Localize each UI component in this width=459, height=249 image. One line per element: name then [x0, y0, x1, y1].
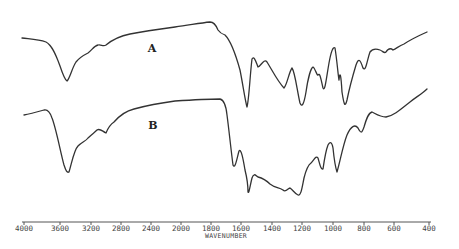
- spectrum-a-curve: [22, 22, 427, 107]
- curve-b-label: B: [148, 119, 157, 132]
- tick-label: 4000: [15, 224, 34, 233]
- ir-spectrum-chart: A B 4000 3600 3200 2800 2400 2000 1800 1…: [0, 0, 459, 249]
- x-axis-title: WAVENUMBER: [205, 232, 247, 240]
- tick-label: 1200: [293, 224, 312, 233]
- tick-label: 2000: [172, 224, 191, 233]
- tick-label: 3200: [82, 224, 101, 233]
- tick-label: 800: [357, 224, 371, 233]
- tick-label: 400: [422, 224, 436, 233]
- tick-label: 600: [387, 224, 401, 233]
- curve-a-label: A: [147, 42, 157, 55]
- tick-label: 3600: [51, 224, 70, 233]
- tick-label: 2800: [112, 224, 131, 233]
- spectrum-b-curve: [24, 89, 427, 195]
- tick-label: 2400: [142, 224, 161, 233]
- tick-label: 1000: [324, 224, 343, 233]
- tick-label: 1400: [263, 224, 282, 233]
